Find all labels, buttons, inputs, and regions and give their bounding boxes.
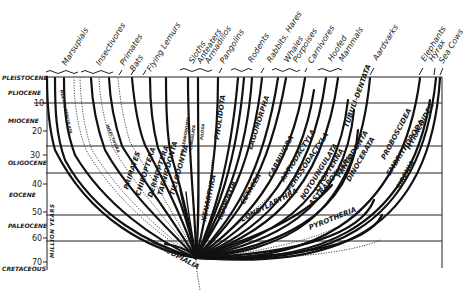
common-names: Marsupials Insectivores Primates Bats Fl… — [60, 10, 465, 73]
order-multituberculata: MULTITUBERCULATA — [59, 89, 73, 134]
branch-pilosa — [196, 78, 199, 258]
order-xenarthra: XENARTHRA — [200, 174, 218, 224]
epoch-paleocene: PALEOCENE — [8, 222, 48, 229]
branches — [47, 77, 440, 290]
axis-title-million-years: MILLION YEARS — [49, 204, 55, 258]
brace-insectivores — [81, 71, 113, 74]
tick-60: 60 — [32, 234, 42, 243]
phylogeny-diagram: 10 20 30 40 50 60 70 PLEISTOCENE PLIOCEN… — [0, 0, 470, 298]
brace-rodents — [231, 69, 252, 72]
tick-20: 20 — [32, 127, 42, 136]
order-pholidota: PHOLIDOTA — [213, 94, 227, 140]
order-pilosa: PILOSA — [199, 124, 205, 141]
brace-xenarthra — [180, 69, 212, 72]
epoch-eocene: EOCENE — [9, 191, 37, 198]
epoch-pliocene: PLIOCENE — [8, 89, 42, 96]
tick-40: 40 — [32, 180, 42, 189]
epoch-pleistocene: PLEISTOCENE — [2, 74, 49, 81]
brace-marsupials — [46, 71, 78, 74]
tick-10: 10 — [34, 99, 44, 108]
brace-whales — [272, 69, 300, 72]
label-aardvarks: Aardvarks — [371, 23, 401, 63]
axis-ticks: 10 20 30 40 50 60 70 — [30, 99, 47, 267]
epoch-cretaceous: CRETACEOUS — [2, 265, 46, 272]
label-flying-lemurs: Flying Lemurs — [145, 21, 182, 73]
braces — [46, 68, 443, 75]
time-grid — [34, 77, 442, 270]
epoch-oligocene: OLIGOCENE — [8, 159, 48, 166]
brace-hoofed — [318, 69, 342, 72]
epoch-miocene: MIOCENE — [8, 117, 40, 124]
tick-50: 50 — [32, 208, 42, 217]
label-marsupials: Marsupials — [60, 26, 90, 67]
